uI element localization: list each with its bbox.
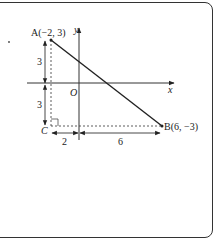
- label-A: A(−2, 3): [31, 27, 66, 39]
- label-B: B(6, −3): [164, 121, 198, 133]
- right-angle-marker: [51, 119, 58, 126]
- label-C: C: [41, 125, 48, 136]
- label-origin: O: [70, 87, 77, 98]
- dim-label-vertical-lower: 3: [37, 99, 42, 110]
- dim-label-horizontal-right: 6: [118, 136, 123, 147]
- coordinate-diagram: A(−2, 3) B(6, −3) C O x y 3 3 2 6: [0, 0, 222, 244]
- label-y-axis: y: [73, 24, 79, 35]
- point-A: [50, 39, 53, 42]
- dim-label-horizontal-left: 2: [62, 136, 67, 147]
- label-x-axis: x: [167, 84, 173, 95]
- dim-label-vertical-upper: 3: [37, 56, 42, 67]
- stray-dot: [8, 41, 10, 43]
